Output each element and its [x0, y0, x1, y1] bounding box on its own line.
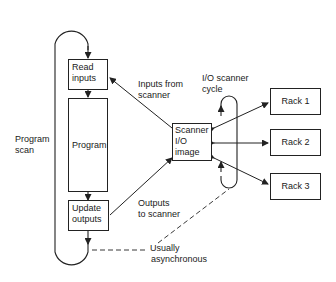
program-scan-line1: Program: [15, 134, 50, 145]
program-scan-line2: scan: [15, 145, 50, 156]
update-outputs-box: Update outputs: [68, 200, 109, 231]
async-line2: asynchronous: [151, 254, 207, 265]
read-inputs-line2: inputs: [72, 73, 104, 84]
async-line1: Usually: [150, 243, 207, 254]
program-scan-label: Program scan: [15, 134, 50, 156]
inputs-from-scanner-label: Inputs from scanner: [138, 79, 183, 101]
scanner-io-image-box: Scanner I/O image: [172, 123, 212, 161]
program-box: Program: [68, 98, 108, 192]
inputs-from-line1: Inputs from: [138, 79, 183, 90]
scanner-line2: I/O: [175, 136, 209, 147]
io-scanner-cycle-label: I/O scanner cycle: [202, 73, 249, 95]
outputs-to-line2: to scanner: [138, 209, 180, 220]
update-outputs-line1: Update: [72, 203, 105, 214]
rack-1-box: Rack 1: [270, 88, 321, 115]
read-inputs-line1: Read: [72, 62, 104, 73]
rack-3-box: Rack 3: [270, 173, 321, 200]
outputs-to-scanner-label: Outputs to scanner: [138, 198, 180, 220]
usually-asynchronous-label: Usually asynchronous: [150, 243, 207, 265]
rack-2-box: Rack 2: [270, 129, 321, 156]
update-outputs-line2: outputs: [72, 214, 105, 225]
io-cycle-line2: cycle: [202, 84, 249, 95]
rack-1-label: Rack 1: [281, 96, 309, 107]
inputs-from-line2: scanner: [138, 90, 183, 101]
scanner-line3: image: [175, 147, 209, 158]
outputs-to-line1: Outputs: [138, 198, 180, 209]
rack-2-label: Rack 2: [281, 137, 309, 148]
program-label: Program: [72, 140, 107, 151]
read-inputs-box: Read inputs: [68, 59, 108, 90]
io-cycle-line1: I/O scanner: [202, 73, 249, 84]
rack-3-label: Rack 3: [281, 181, 309, 192]
scanner-line1: Scanner: [175, 125, 209, 136]
